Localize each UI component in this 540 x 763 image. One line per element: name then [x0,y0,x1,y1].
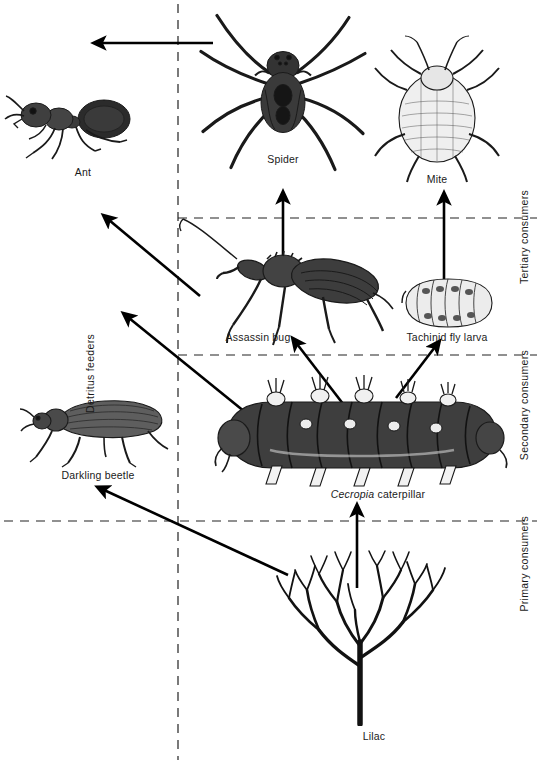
organism-lilac-illustration [245,546,475,726]
caption-cecropia-caterpillar: Cecropia caterpillar [331,488,425,500]
food-web-figure: Ant Spider [0,0,540,763]
organism-cecropia-caterpillar-illustration [210,372,510,502]
caption-lilac: Lilac [363,730,386,742]
caption-tachinid-fly-larva: Tachinid fly larva [406,331,487,343]
zone-label-detritus-feeders: Detritus feeders [84,334,96,413]
zone-label-tertiary-consumers: Tertiary consumers [518,190,530,284]
caption-mite: Mite [427,173,448,185]
caption-assassin-bug: Assassin bug [226,331,291,343]
zone-label-secondary-consumers: Secondary consumers [518,350,530,460]
caption-spider: Spider [267,153,299,165]
caption-darkling-beetle: Darkling beetle [61,469,134,481]
zone-label-primary-consumers: Primary consumers [518,516,530,612]
organism-mite-illustration [367,30,507,190]
caption-ant: Ant [75,166,91,178]
organism-tachinid-fly-larva-illustration [392,273,502,333]
organism-darkling-beetle-illustration [18,379,178,469]
organism-ant-illustration [0,75,150,175]
